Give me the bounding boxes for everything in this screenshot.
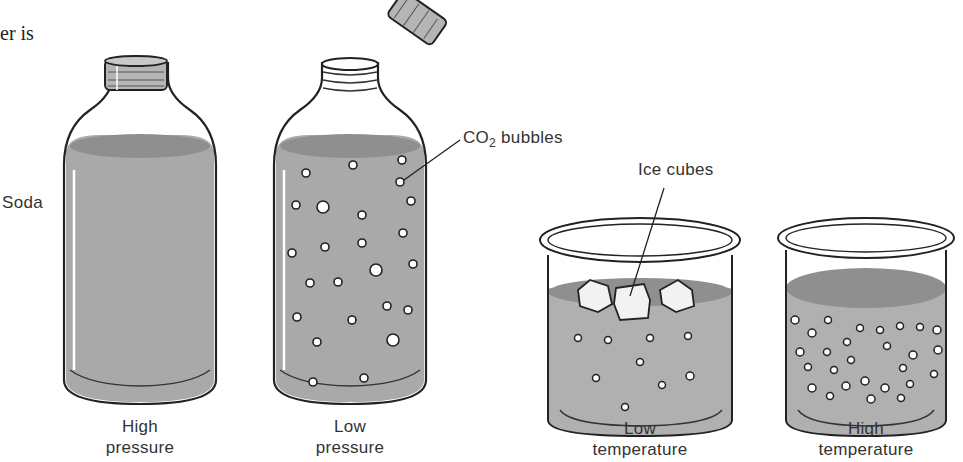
ice-cubes-label: Ice cubes [638, 160, 713, 180]
caption-high-pressure: High pressure [90, 416, 190, 458]
caption-high-temperature: High temperature [806, 418, 926, 460]
bubbles-text: bubbles [496, 128, 563, 147]
bottle-open [274, 58, 460, 404]
caption-line1: High [90, 416, 190, 437]
beaker-hot [778, 218, 954, 436]
caption-line2: temperature [580, 439, 700, 460]
caption-line2: pressure [90, 437, 190, 458]
caption-line1: Low [300, 416, 400, 437]
co2-text: CO [463, 128, 489, 147]
caption-line1: High [806, 418, 926, 439]
soda-label: Soda [2, 193, 43, 213]
caption-line2: temperature [806, 439, 926, 460]
bottle-closed [64, 56, 216, 404]
beaker-cold [540, 188, 740, 436]
diagram-illustration [0, 0, 963, 462]
caption-line2: pressure [300, 437, 400, 458]
bottle-cap-flying [386, 0, 447, 46]
co2-bubbles-label: CO2 bubbles [463, 128, 563, 150]
caption-line1: Low [580, 418, 700, 439]
caption-low-temperature: Low temperature [580, 418, 700, 460]
bottle-cap-closed [105, 56, 167, 90]
caption-low-pressure: Low pressure [300, 416, 400, 458]
